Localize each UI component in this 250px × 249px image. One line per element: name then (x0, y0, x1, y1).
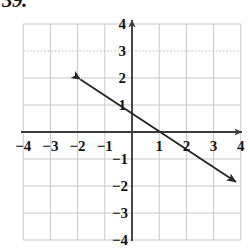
y-tick-label: −3 (112, 205, 128, 221)
y-tick-label: 2 (119, 70, 127, 86)
x-tick-label: −2 (70, 138, 86, 154)
x-axis-tick-labels: −4 −3 −2 −1 1 2 3 4 (15, 138, 245, 154)
graph-figure: 39. (0, 0, 250, 249)
x-tick-label: 4 (237, 138, 245, 154)
y-tick-label: 4 (119, 16, 127, 32)
y-tick-label: −2 (112, 178, 128, 194)
x-tick-label: 2 (183, 138, 191, 154)
x-tick-label: −3 (42, 138, 58, 154)
y-tick-label: 1 (119, 97, 127, 113)
plotted-line (81, 80, 237, 183)
coordinate-plane-svg: −4 −3 −2 −1 1 2 3 4 4 3 2 1 −1 −2 −3 −4 (0, 0, 250, 249)
y-tick-label: −1 (112, 151, 128, 167)
y-tick-label: −4 (112, 232, 129, 248)
x-tick-label: 1 (155, 138, 163, 154)
x-tick-label: −4 (15, 138, 32, 154)
problem-number: 39. (2, 0, 27, 8)
x-tick-label: 3 (210, 138, 218, 154)
y-tick-label: 3 (119, 43, 127, 59)
x-tick-label: −1 (97, 138, 113, 154)
